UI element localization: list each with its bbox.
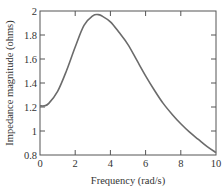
y-tick-label: 1.2	[24, 102, 37, 113]
y-axis-label: Impedance magnitude (ohms)	[4, 20, 16, 146]
y-tick-label: 1.6	[24, 54, 37, 65]
impedance-curve	[40, 15, 216, 153]
x-tick-label: 10	[211, 158, 222, 169]
x-axis-label: Frequency (rad/s)	[91, 175, 166, 187]
series-layer	[40, 15, 216, 153]
y-tick-label: 1.8	[24, 30, 37, 41]
x-tick-label: 8	[178, 158, 183, 169]
x-tick-label: 6	[143, 158, 148, 169]
y-tick-label: 1.4	[24, 78, 38, 89]
y-tick-label: 1	[32, 126, 37, 137]
plot-border	[40, 11, 216, 155]
y-axis-ticks: 0.811.21.41.61.82	[24, 6, 216, 161]
plot-frame	[40, 11, 216, 155]
y-tick-label: 0.8	[24, 150, 37, 161]
x-tick-label: 0	[37, 158, 42, 169]
impedance-chart: 0246810 0.811.21.41.61.82 Frequency (rad…	[0, 0, 222, 192]
x-tick-label: 4	[108, 158, 114, 169]
x-tick-label: 2	[73, 158, 78, 169]
x-axis-ticks: 0246810	[37, 11, 221, 169]
y-tick-label: 2	[32, 6, 37, 17]
